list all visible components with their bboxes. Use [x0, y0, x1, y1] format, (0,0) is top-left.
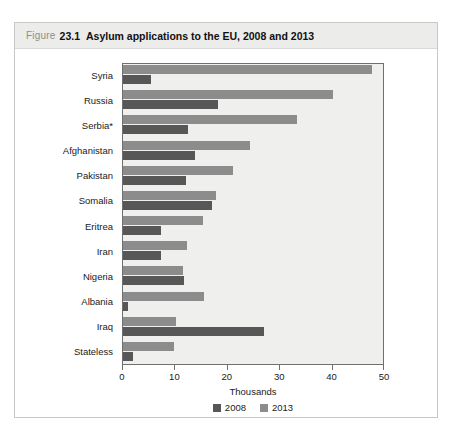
figure-title: Asylum applications to the EU, 2008 and …: [86, 30, 314, 42]
figure-header: Figure 23.1 Asylum applications to the E…: [15, 23, 437, 49]
bar-2008: [123, 75, 151, 84]
x-axis-tick: [383, 365, 384, 370]
bar-2013: [123, 292, 204, 301]
x-axis-tick: [122, 365, 123, 370]
y-axis-label: Syria: [91, 71, 113, 81]
bar-2008: [123, 226, 161, 235]
bar-2008: [123, 100, 218, 109]
bar-2008: [123, 125, 188, 134]
x-axis-tick-label: 20: [222, 371, 233, 382]
bar-2008: [123, 251, 161, 260]
bar-2008: [123, 176, 186, 185]
y-axis-label: Eritrea: [85, 222, 113, 232]
x-axis-tick-label: 10: [169, 371, 180, 382]
bar-group: [123, 341, 383, 366]
bar-group: [123, 265, 383, 290]
bar-2013: [123, 166, 233, 175]
x-axis-tick: [279, 365, 280, 370]
bar-2013: [123, 90, 333, 99]
bar-2013: [123, 115, 297, 124]
bar-2008: [123, 151, 195, 160]
y-axis-labels: SyriaRussiaSerbia*AfghanistanPakistanSom…: [15, 63, 118, 365]
bar-2013: [123, 241, 187, 250]
legend-swatch-2013: [260, 404, 268, 412]
y-axis-label: Nigeria: [83, 272, 113, 282]
chart-legend: 20082013: [122, 402, 384, 413]
bar-2008: [123, 302, 128, 311]
bar-2008: [123, 352, 133, 361]
bar-group: [123, 190, 383, 215]
x-axis-tick-labels: 01020304050: [122, 371, 384, 385]
y-axis-label: Iran: [97, 247, 113, 257]
bar-group: [123, 140, 383, 165]
chart-area: SyriaRussiaSerbia*AfghanistanPakistanSom…: [15, 49, 437, 418]
bar-2013: [123, 342, 174, 351]
x-axis-tick: [174, 365, 175, 370]
bar-group: [123, 215, 383, 240]
legend-swatch-2008: [213, 404, 221, 412]
bar-group: [123, 240, 383, 265]
bars-layer: [123, 64, 383, 364]
bar-group: [123, 64, 383, 89]
bar-2008: [123, 201, 212, 210]
legend-label-2008: 2008: [225, 402, 246, 413]
bar-2013: [123, 191, 216, 200]
x-axis-tick-label: 40: [326, 371, 337, 382]
legend-item-2008: 2008: [213, 402, 246, 413]
bar-2013: [123, 65, 372, 74]
bar-2013: [123, 141, 250, 150]
figure-number: 23.1: [60, 30, 80, 42]
bar-2013: [123, 216, 203, 225]
legend-item-2013: 2013: [260, 402, 293, 413]
bar-2013: [123, 317, 176, 326]
bar-2008: [123, 276, 184, 285]
x-axis-tick-label: 0: [119, 371, 124, 382]
y-axis-label: Stateless: [74, 347, 113, 357]
bar-group: [123, 316, 383, 341]
plot-area: [122, 63, 384, 365]
x-axis-title: Thousands: [122, 386, 384, 397]
y-axis-label: Albania: [81, 297, 113, 307]
y-axis-label: Serbia*: [82, 121, 113, 131]
bar-2013: [123, 266, 183, 275]
figure-label: Figure: [26, 30, 56, 41]
y-axis-label: Afghanistan: [63, 146, 113, 156]
y-axis-label: Russia: [84, 96, 113, 106]
y-axis-label: Pakistan: [77, 171, 113, 181]
x-axis-tick: [332, 365, 333, 370]
legend-label-2013: 2013: [272, 402, 293, 413]
bar-group: [123, 114, 383, 139]
y-axis-label: Iraq: [97, 322, 113, 332]
figure-card: Figure 23.1 Asylum applications to the E…: [14, 22, 438, 418]
bar-group: [123, 291, 383, 316]
bar-group: [123, 165, 383, 190]
x-axis-tick-label: 30: [274, 371, 285, 382]
x-axis-tick: [227, 365, 228, 370]
bar-group: [123, 89, 383, 114]
bar-2008: [123, 327, 264, 336]
x-axis-tick-label: 50: [379, 371, 390, 382]
y-axis-label: Somalia: [79, 196, 113, 206]
